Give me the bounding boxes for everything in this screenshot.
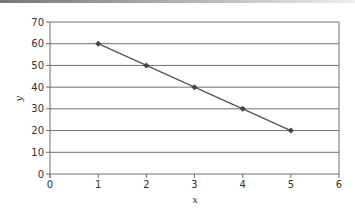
y-tick-label: 60 [31,38,44,49]
y-tick-label: 10 [31,147,44,158]
y-axis-ticks: 010203040506070 [31,17,50,180]
y-tick-label: 0 [38,169,44,180]
data-point-marker [288,128,294,134]
x-tick-label: 4 [239,179,245,190]
y-tick-label: 70 [31,17,44,28]
x-tick-label: 2 [143,179,149,190]
y-tick-label: 20 [31,125,44,136]
data-point-marker [240,106,246,112]
x-tick-label: 0 [47,179,53,190]
x-tick-label: 5 [288,179,294,190]
data-point-marker [95,41,101,47]
x-tick-label: 3 [191,179,197,190]
y-axis-title: y [13,96,24,103]
data-point-marker [143,62,149,68]
axes [50,22,339,178]
data-point-marker [192,84,198,90]
y-tick-label: 40 [31,82,44,93]
x-tick-label: 6 [336,179,342,190]
x-axis-ticks: 0123456 [47,174,342,190]
y-tick-label: 30 [31,103,44,114]
line-chart: 010203040506070 0123456 x y [0,0,355,217]
x-tick-label: 1 [95,179,101,190]
x-axis-title: x [192,194,198,205]
y-tick-label: 50 [31,60,44,71]
